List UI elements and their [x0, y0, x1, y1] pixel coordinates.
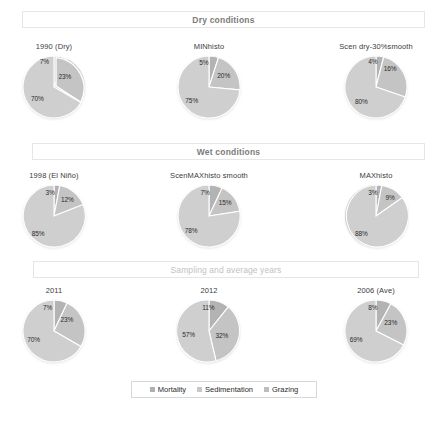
slice-label-grazing: 80% — [355, 98, 368, 105]
slice-label-grazing: 57% — [182, 330, 195, 337]
section-header-dry: Dry conditions — [22, 11, 425, 28]
pie-chart-1990-dry: 7% 23% 70% — [22, 55, 86, 119]
slice-label-sedimentation: 23% — [60, 316, 73, 323]
slice-label-sedimentation: 12% — [61, 195, 74, 202]
pie-title-2012: 2012 — [200, 286, 217, 295]
pie-chart-2006-ave: 8% 23% 69% — [344, 299, 408, 363]
pie-chart-scen-dry-30-smooth: 4% 16% 80% — [344, 55, 408, 119]
pie-chart-2012: 11% 32% 57% — [177, 299, 241, 363]
pie-cell-maxhisto: MAXhisto 3% 9% 88% — [330, 171, 422, 257]
legend-swatch-grazing — [264, 387, 269, 392]
slice-label-sedimentation: 9% — [385, 193, 394, 200]
legend-label-sedimentation: Sedimentation — [205, 385, 253, 394]
slice-label-mortality: 7% — [43, 303, 52, 310]
pie-chart-1998-el-nino: 3% 12% 85% — [22, 184, 86, 248]
slice-label-grazing: 70% — [27, 335, 40, 342]
pie-cell-1998-el-nino: 1998 (El Niño) 3% 12% 85% — [8, 171, 100, 257]
pie-title-scenmaxhisto-smooth: ScenMAXhisto smooth — [170, 171, 248, 180]
pie-cell-2006-ave: 2006 (Ave) 8% 23% 69% — [330, 286, 422, 372]
slice-label-mortality: 3% — [46, 189, 55, 196]
pie-title-1998-el-nino: 1998 (El Niño) — [29, 171, 78, 180]
slice-label-sedimentation: 23% — [59, 73, 72, 80]
slice-label-mortality: 7% — [201, 188, 210, 195]
pie-cell-1990-dry: 1990 (Dry) 7% 23% 70% — [8, 42, 100, 128]
slice-label-grazing: 78% — [185, 227, 198, 234]
slice-label-sedimentation: 23% — [384, 319, 397, 326]
legend-label-grazing: Grazing — [272, 385, 298, 394]
slice-label-sedimentation: 15% — [219, 198, 232, 205]
legend-item-grazing: Grazing — [264, 385, 298, 394]
slice-label-mortality: 3% — [368, 189, 377, 196]
slice-label-mortality: 5% — [199, 59, 208, 66]
slice-label-mortality: 7% — [40, 58, 49, 65]
slice-label-grazing: 69% — [350, 335, 363, 342]
pie-cell-2011: 2011 7% 23% 70% — [8, 286, 100, 372]
slice-label-grazing: 88% — [355, 230, 368, 237]
chart-legend: Mortality Sedimentation Grazing — [131, 381, 317, 398]
legend-swatch-sedimentation — [197, 387, 202, 392]
pie-title-minhisto: MINhisto — [194, 42, 224, 51]
pie-cell-minhisto: MINhisto 5% 20% 75% — [163, 42, 255, 128]
slice-label-sedimentation: 32% — [215, 331, 228, 338]
pie-title-maxhisto: MAXhisto — [360, 171, 393, 180]
pie-chart-2011: 7% 23% 70% — [22, 299, 86, 363]
section-header-wet-label: Wet conditions — [197, 147, 261, 157]
slice-label-grazing: 70% — [31, 94, 44, 101]
section-header-dry-label: Dry conditions — [192, 15, 254, 25]
pie-cell-scenmaxhisto-smooth: ScenMAXhisto smooth 7% 15% 78% — [163, 171, 255, 257]
pie-svg-minhisto — [177, 55, 241, 119]
section-header-wet: Wet conditions — [32, 143, 425, 160]
pie-title-2006-ave: 2006 (Ave) — [357, 286, 395, 295]
slice-label-sedimentation: 20% — [217, 71, 230, 78]
slice-label-grazing: 85% — [32, 229, 45, 236]
slice-label-mortality: 4% — [368, 58, 377, 65]
legend-swatch-mortality — [150, 387, 155, 392]
slice-label-grazing: 75% — [185, 96, 198, 103]
pie-chart-maxhisto: 3% 9% 88% — [344, 184, 408, 248]
pie-cell-2012: 2012 11% 32% 57% — [163, 286, 255, 372]
pie-svg-1990-dry — [22, 55, 86, 119]
pie-svg-2011 — [22, 299, 86, 363]
section-header-sampling-label: Sampling and average years — [171, 265, 282, 275]
slice-label-sedimentation: 16% — [384, 65, 397, 72]
legend-item-mortality: Mortality — [150, 385, 186, 394]
pie-title-1990-dry: 1990 (Dry) — [36, 42, 72, 51]
pie-chart-minhisto: 5% 20% 75% — [177, 55, 241, 119]
pie-cell-scen-dry-30-smooth: Scen dry-30%smooth 4% 16% 80% — [330, 42, 422, 128]
pie-chart-scenmaxhisto-smooth: 7% 15% 78% — [177, 184, 241, 248]
legend-label-mortality: Mortality — [158, 385, 186, 394]
slice-label-mortality: 11% — [202, 304, 214, 311]
section-header-sampling: Sampling and average years — [33, 261, 419, 278]
pie-chart-figure: Dry conditions 1990 (Dry) 7% 23% 70% MIN… — [0, 0, 443, 427]
slice-label-mortality: 8% — [368, 303, 377, 310]
legend-item-sedimentation: Sedimentation — [197, 385, 253, 394]
pie-title-2011: 2011 — [46, 286, 63, 295]
pie-title-scen-dry-30-smooth: Scen dry-30%smooth — [339, 42, 413, 51]
